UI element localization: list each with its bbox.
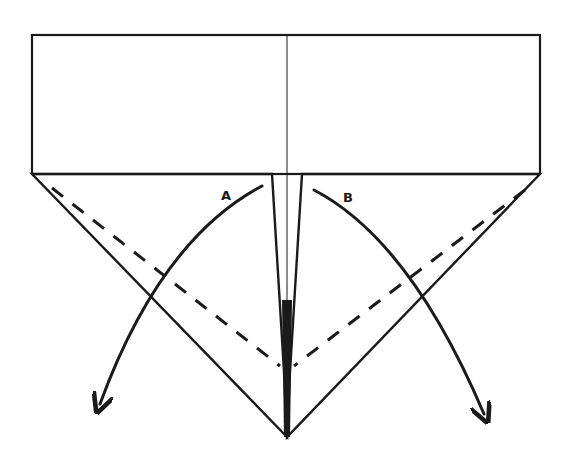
label-flap-b: B bbox=[343, 190, 353, 205]
left-triangle-flap bbox=[32, 174, 287, 437]
top-rectangle bbox=[32, 35, 540, 174]
left-dashed-valley-fold bbox=[52, 188, 280, 366]
arrow-a-fold-out-left bbox=[100, 186, 262, 404]
label-flap-a: A bbox=[221, 188, 231, 203]
center-slit bbox=[282, 300, 292, 437]
right-triangle-flap bbox=[287, 174, 540, 437]
arrow-b-fold-out-right bbox=[314, 190, 484, 414]
origami-diagram: A B bbox=[0, 0, 567, 465]
